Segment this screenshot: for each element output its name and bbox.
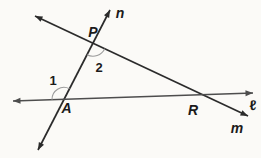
line-n-arrowhead-end (104, 10, 110, 18)
line-n-arrowhead-start (38, 142, 44, 150)
point-R-label: R (188, 102, 199, 118)
point-P-label: P (88, 24, 98, 40)
line-m-arrowhead-end (240, 110, 248, 116)
line-l (13, 93, 253, 101)
line-n-label: n (116, 5, 125, 21)
diagram-page: nmℓ12PAR (0, 0, 261, 158)
line-l-arrowhead-end (245, 90, 253, 96)
geometry-diagram-canvas: nmℓ12PAR (0, 0, 261, 158)
line-l-label: ℓ (250, 97, 257, 113)
line-m-arrowhead-start (35, 16, 43, 22)
point-A-label: A (60, 100, 71, 116)
line-l-arrowhead-start (13, 98, 21, 104)
angle-1-label: 1 (49, 73, 56, 88)
angle-2-label: 2 (95, 60, 102, 75)
line-m-label: m (231, 120, 243, 136)
